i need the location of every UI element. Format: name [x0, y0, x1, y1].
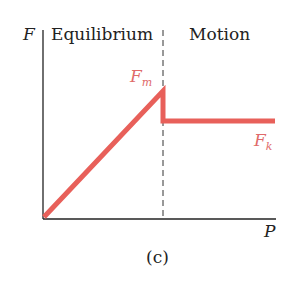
- friction-curve: [44, 91, 275, 217]
- figure-caption: (c): [146, 247, 169, 267]
- region-equilibrium-label: Equilibrium: [51, 24, 153, 44]
- y-axis-label: F: [23, 24, 35, 44]
- fm-label: Fm: [130, 66, 152, 89]
- x-axis-label: P: [264, 221, 275, 241]
- fk-label: Fk: [254, 130, 272, 153]
- region-motion-label: Motion: [189, 24, 250, 44]
